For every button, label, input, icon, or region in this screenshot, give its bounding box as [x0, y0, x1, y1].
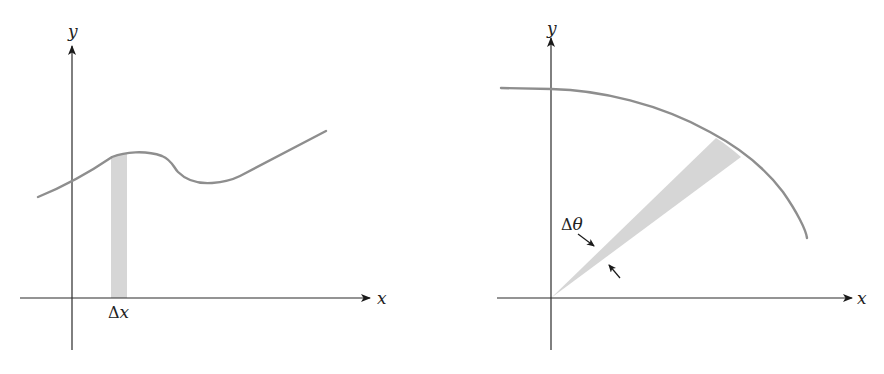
- delta-theta-label: Δθ: [561, 214, 583, 234]
- polar-panel: y x Δθ: [497, 18, 867, 350]
- delta-x-label: Δx: [108, 302, 130, 322]
- y-axis-label: y: [546, 18, 557, 38]
- x-axis-label: x: [857, 288, 867, 308]
- cartesian-panel: y x Δx: [20, 21, 387, 350]
- delta-x-strip: [111, 154, 127, 299]
- function-curve: [38, 131, 326, 197]
- y-axis-label: y: [67, 21, 78, 41]
- x-axis-label: x: [377, 288, 387, 308]
- area-elements-diagram: y x Δx y x Δθ: [0, 0, 884, 374]
- delta-theta-pointer-lower: [609, 265, 620, 278]
- delta-theta-pointer-upper: [578, 234, 594, 246]
